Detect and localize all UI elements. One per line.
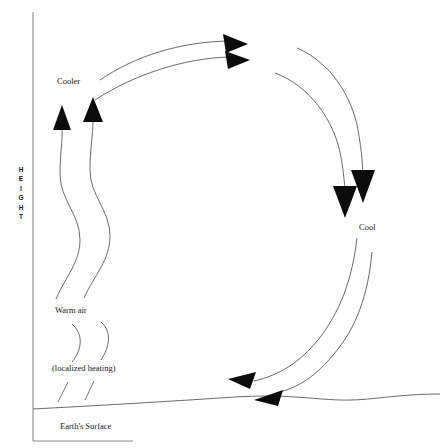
label-earth-surface: Earth's Surface [60, 422, 111, 431]
arrow-up-2 [83, 97, 103, 122]
earth-surface-line [33, 394, 440, 409]
label-cool: Cool [359, 223, 376, 232]
warm-arc-2 [101, 322, 109, 360]
y-axis-label: H E I G H T [14, 165, 28, 222]
y-axis-letter: I [14, 184, 28, 193]
y-axis-letter: G [14, 193, 28, 202]
y-axis-letter: H [14, 165, 28, 174]
label-localized-heating: (localized heating) [52, 364, 115, 373]
arrow-up-1 [53, 105, 71, 130]
label-cooler: Cooler [57, 77, 80, 86]
warm-arc-1 [72, 324, 80, 362]
return-streamline-1 [254, 238, 357, 381]
y-axis-letter: T [14, 212, 28, 221]
arrow-right-1 [223, 34, 248, 53]
arrow-down-2 [333, 186, 357, 218]
y-axis-letter: E [14, 174, 28, 183]
rising-streamline-2 [84, 120, 110, 298]
y-axis-letter: H [14, 203, 28, 212]
top-streamline-1 [100, 41, 228, 80]
heating-tick-1 [58, 382, 68, 402]
arrow-left-2 [254, 390, 283, 406]
label-warm-air: Warm air [55, 306, 87, 315]
arrow-left-1 [228, 372, 256, 389]
return-streamline-2 [276, 252, 372, 393]
rising-streamline-1 [56, 126, 80, 299]
convection-diagram: H E I G H T Cooler Warm air (localized h… [0, 0, 440, 448]
top-streamline-2 [95, 57, 230, 100]
descending-streamline-2 [275, 73, 345, 198]
arrow-right-2 [225, 51, 250, 69]
heating-tick-2 [85, 381, 94, 400]
descending-streamline-1 [297, 48, 363, 182]
